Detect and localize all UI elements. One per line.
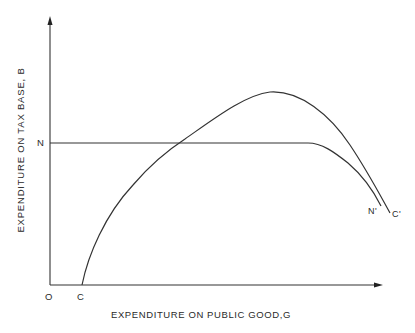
x-axis-arrow-icon <box>374 283 383 288</box>
y-axis-label: EXPENDITURE ON TAX BASE, B <box>15 67 26 232</box>
n-prime-label: N' <box>368 206 377 216</box>
n-curve <box>50 143 381 206</box>
n-tick-label: N <box>37 137 44 148</box>
x-axis-label: EXPENDITURE ON PUBLIC GOOD,G <box>111 309 291 320</box>
y-axis-arrow-icon <box>48 16 53 25</box>
c-tick-label: C <box>77 291 84 302</box>
c-prime-label: C' <box>392 209 401 219</box>
diagram-canvas <box>0 0 415 333</box>
c-curve <box>82 92 390 285</box>
origin-label: O <box>45 291 53 302</box>
